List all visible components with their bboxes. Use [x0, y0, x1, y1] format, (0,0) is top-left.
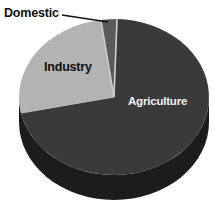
pie-chart-graphic [0, 0, 215, 208]
domestic-leader-group [62, 15, 108, 22]
domestic-leader-line [62, 15, 108, 22]
pie-chart-figure: Domestic Industry Agriculture [0, 0, 215, 208]
